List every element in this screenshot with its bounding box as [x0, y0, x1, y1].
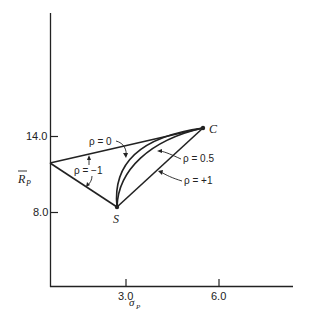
rho-0-arrowhead — [123, 153, 128, 158]
svg-text:P: P — [25, 179, 31, 188]
point-c-marker — [201, 126, 205, 130]
point-s-label: S — [113, 212, 119, 226]
rho-neg1-label: ρ = −1 — [74, 165, 103, 176]
rho-pos1-arrowhead — [158, 170, 163, 175]
rho-neg1-upper-line — [50, 128, 203, 163]
svg-text:R: R — [17, 172, 26, 186]
rho-pos1-arrow — [161, 172, 182, 181]
rho-05-arrowhead — [157, 149, 162, 153]
y-tick-label-14: 14.0 — [26, 130, 47, 142]
point-s-marker — [115, 205, 119, 209]
rho-0-label: ρ = 0 — [89, 136, 112, 147]
x-tick-label-6: 6.0 — [211, 290, 226, 302]
rho-05-label: ρ = 0.5 — [183, 153, 214, 164]
y-axis-label: R P — [17, 171, 31, 188]
efficient-frontier-chart: 14.0 8.0 3.0 6.0 R P σ P S C ρ = 0 ρ = −… — [0, 0, 313, 322]
svg-text:σ: σ — [129, 296, 135, 308]
rho-neg1-arrowhead-up — [87, 155, 91, 160]
svg-text:P: P — [135, 303, 141, 311]
rho-pos1-label: ρ = +1 — [184, 175, 213, 186]
rho-pos1-line — [117, 128, 203, 207]
x-axis-label: σ P — [129, 296, 141, 311]
point-c-label: C — [209, 122, 218, 136]
y-tick-label-8: 8.0 — [33, 206, 48, 218]
